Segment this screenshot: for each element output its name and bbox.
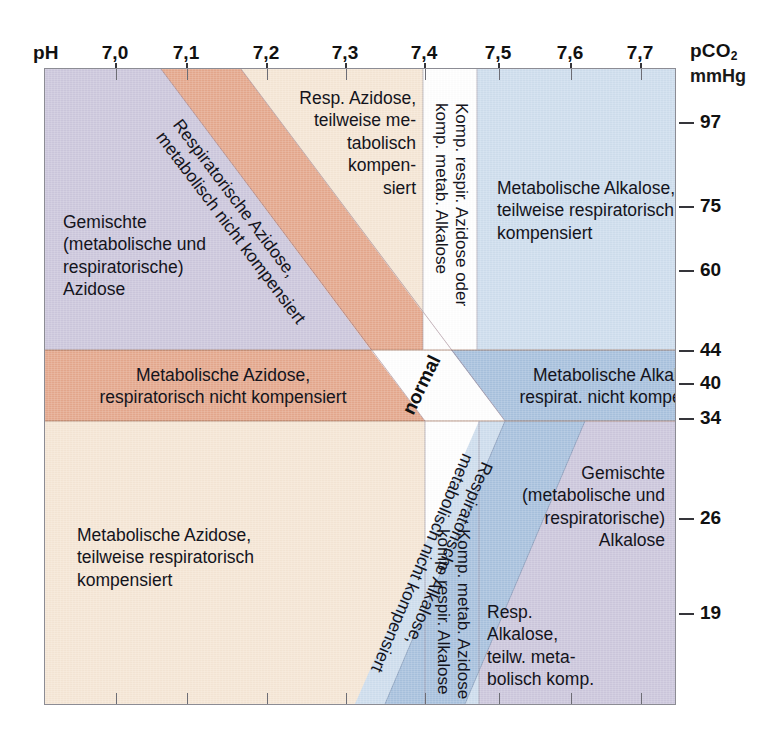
- y-tick-mark-75: [679, 206, 694, 208]
- x-tick-label-7-7: 7,7: [627, 42, 653, 64]
- label-resp-acidosis-partial: Resp. Azidose, teilweise me- tabolisch k…: [241, 87, 416, 199]
- x-tick-label-7-5: 7,5: [485, 42, 511, 64]
- label-compensated-resp-acidosis: Komp. respir. Azidose oder komp. metab. …: [431, 103, 471, 341]
- y-tick-mark-97: [679, 122, 694, 124]
- acid-base-nomogram-figure: pH pCO2 mmHg 7,0 7,1 7,2 7,3 7,4 7,5 7,6…: [0, 0, 774, 734]
- y-tick-label-60: 60: [700, 259, 721, 281]
- y-tick-mark-19: [679, 613, 694, 615]
- x-tick-label-7-0: 7,0: [102, 42, 128, 64]
- x-tick-label-7-1: 7,1: [173, 42, 199, 64]
- label-metab-acidosis-uncompensated: Metabolische Azidose, respiratorisch nic…: [73, 364, 373, 409]
- y-tick-label-19: 19: [700, 602, 721, 624]
- inner-x-tick-bottom-7-0: [116, 693, 117, 704]
- label-metab-acidosis-partial: Metabolische Azidose, teilweise respirat…: [77, 524, 357, 591]
- y-tick-label-75: 75: [700, 195, 721, 217]
- inner-x-tick-7-3: [346, 69, 347, 80]
- y-tick-mark-40: [679, 383, 694, 385]
- y-tick-label-26: 26: [700, 507, 721, 529]
- label-mixed-alkalosis: Gemischte (metabolische und respiratoris…: [477, 462, 665, 552]
- x-tick-label-7-2: 7,2: [253, 42, 279, 64]
- label-metab-alkalosis-uncompensated: Metabolische Alkalose, respirat. nicht k…: [507, 364, 676, 409]
- inner-x-tick-bottom-7-1: [187, 693, 188, 704]
- y-tick-mark-34: [679, 418, 694, 420]
- y-tick-mark-26: [679, 518, 694, 520]
- x-tick-label-7-3: 7,3: [332, 42, 358, 64]
- inner-x-tick-7-6: [571, 69, 572, 80]
- y-tick-label-40: 40: [700, 372, 721, 394]
- label-resp-alkalosis-partial: Resp. Alkalose, teilw. meta- bolisch kom…: [487, 601, 637, 691]
- label-metab-alkalosis-partial: Metabolische Alkalose, teilweise respira…: [497, 177, 676, 244]
- inner-x-tick-bottom-7-2: [267, 693, 268, 704]
- x-tick-label-7-6: 7,6: [557, 42, 583, 64]
- inner-x-tick-7-7: [641, 69, 642, 80]
- nomogram-plot-area: Gemischte (metabolische und respiratoris…: [44, 68, 676, 705]
- inner-x-tick-7-4: [425, 69, 426, 80]
- y-tick-label-34: 34: [700, 407, 721, 429]
- inner-x-tick-bottom-7-4: [425, 693, 426, 704]
- inner-x-tick-7-0: [116, 69, 117, 80]
- x-tick-label-7-4: 7,4: [411, 42, 437, 64]
- inner-x-tick-bottom-7-5: [499, 693, 500, 704]
- x-axis-title: pH: [33, 42, 59, 64]
- y-axis-unit: mmHg: [690, 66, 746, 87]
- y-tick-mark-44: [679, 350, 694, 352]
- inner-x-tick-bottom-7-6: [571, 693, 572, 704]
- y-axis-title: pCO2: [690, 40, 738, 62]
- inner-x-tick-7-2: [267, 69, 268, 80]
- inner-x-tick-7-5: [499, 69, 500, 80]
- inner-x-tick-7-1: [187, 69, 188, 80]
- y-tick-mark-60: [679, 270, 694, 272]
- y-tick-label-44: 44: [700, 339, 721, 361]
- y-axis-title-text: pCO: [690, 40, 731, 61]
- inner-x-tick-bottom-7-7: [641, 693, 642, 704]
- y-axis-title-subscript: 2: [731, 49, 738, 63]
- inner-x-tick-bottom-7-3: [346, 693, 347, 704]
- y-tick-label-97: 97: [700, 111, 721, 133]
